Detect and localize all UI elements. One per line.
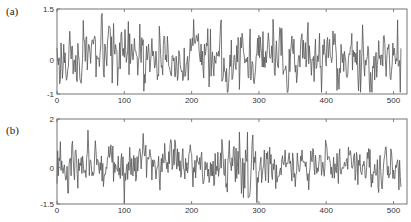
x-tick-label: 300 xyxy=(252,96,266,105)
series-line xyxy=(57,13,401,92)
y-tick-label: 1.5 xyxy=(43,5,55,14)
x-tick-label: 500 xyxy=(387,96,401,105)
x-tick-label: 500 xyxy=(387,206,401,215)
axes-b: 0100200300400500-1.502 xyxy=(40,115,407,215)
x-tick-label: 300 xyxy=(252,206,266,215)
series-line xyxy=(57,130,401,203)
axes-frame xyxy=(57,9,407,94)
x-tick-label: 400 xyxy=(320,206,334,215)
y-tick-label: -1 xyxy=(47,90,55,99)
x-tick-label: 100 xyxy=(118,96,132,105)
y-tick-label: 0 xyxy=(50,164,55,173)
x-tick-label: 200 xyxy=(185,206,199,215)
x-tick-label: 400 xyxy=(320,96,334,105)
y-tick-label: 2 xyxy=(50,115,55,124)
y-tick-label: -1.5 xyxy=(40,200,54,209)
x-tick-label: 100 xyxy=(118,206,132,215)
x-tick-label: 200 xyxy=(185,96,199,105)
axes-a: 0100200300400500-101.5 xyxy=(43,5,407,105)
figure: 0100200300400500-101.5 0100200300400500-… xyxy=(0,0,411,222)
x-tick-label: 0 xyxy=(55,206,60,215)
x-tick-label: 0 xyxy=(55,96,60,105)
y-tick-label: 0 xyxy=(50,56,55,65)
